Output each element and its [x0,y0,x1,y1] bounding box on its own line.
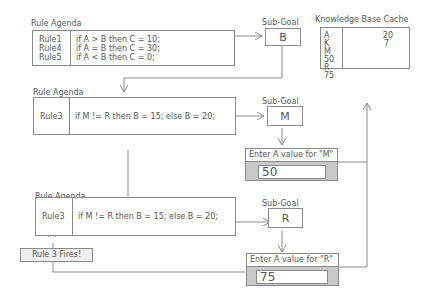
agenda2-rule: Rule3 [34,98,70,134]
subgoal-r: R [268,208,303,228]
rule-condition: if A < B then C = 0; [76,53,160,62]
agenda1-title: Rule Agenda [31,19,81,28]
agenda1-conditions: if A > B then C = 10; if A = B then C = … [71,31,160,65]
rule-agenda-2: Rule3 if M != R then B = 15; else B = 20… [33,97,236,135]
agenda2-condition: if M != R then B = 15; else B = 20; [70,98,215,134]
agenda3-rule: Rule3 [36,198,73,235]
subgoal1-title: Sub-Goal [262,18,299,27]
prompt-m-title: Enter A value for "M" [246,149,337,162]
rule-agenda-1: Rule1 Rule4 Rule5 if A > B then C = 10; … [32,30,235,66]
kb-var: 75 [324,72,342,80]
rule-name: Rule5 [39,53,70,62]
rule-name: Rule1 [39,35,70,44]
kb-variables: A K M 50 R 75 [321,28,343,68]
subgoal2-title: Sub-Goal [262,97,299,106]
rule-condition: if A > B then C = 10; [76,35,160,44]
prompt-r-input[interactable]: 75 [256,270,328,284]
knowledge-base-cache: A K M 50 R 75 20 7 [320,27,410,69]
rule-fired-label: Rule 3 Fires! [20,248,93,262]
agenda2-title: Rule Agenda [33,88,83,97]
prompt-m-dialog: Enter A value for "M" 50 [245,148,338,181]
prompt-r-dialog: Enter A value for "R" 75 [246,253,339,286]
prompt-r-title: Enter A value for "R" [247,254,338,267]
kb-title: Knowledge Base Cache [315,15,408,24]
kb-val: 7 [343,40,393,48]
agenda3-condition: if M != R then B = 15; else B = 20; [73,198,218,235]
rule-agenda-3: Rule3 if M != R then B = 15; else B = 20… [35,197,236,236]
agenda1-rules: Rule1 Rule4 Rule5 [33,31,71,65]
subgoal-b: B [265,28,301,46]
rule-condition: if A = B then C = 30; [76,44,160,53]
rule-name: Rule4 [39,44,70,53]
subgoal-m: M [267,106,303,126]
kb-values: 20 7 [343,28,409,68]
prompt-m-input[interactable]: 50 [258,165,326,179]
subgoal3-title: Sub-Goal [262,199,299,208]
